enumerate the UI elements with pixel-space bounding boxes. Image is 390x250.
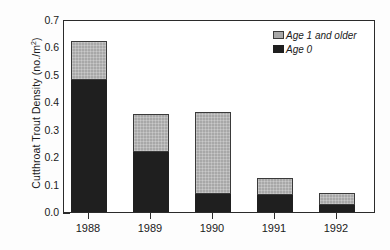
bar-segment-age1-and-older <box>257 178 293 195</box>
y-tick-label-0.0: 0.0 <box>19 207 59 217</box>
chart-legend: Age 1 and older Age 0 <box>273 29 383 57</box>
y-tick-label-0.6: 0.6 <box>19 42 59 52</box>
y-axis-title-tail: ) <box>30 37 42 41</box>
x-tick-label-1989: 1989 <box>120 222 180 234</box>
y-tick-label-0.4: 0.4 <box>19 97 59 107</box>
legend-label-age1: Age 1 and older <box>286 30 357 41</box>
chart-figure: Cutthroat Trout Density (no./m2) 0.7 0.6… <box>0 0 390 250</box>
bar-segment-age0 <box>195 194 231 212</box>
x-tick-label-1990: 1990 <box>182 222 242 234</box>
y-axis-title-base: Cutthroat Trout Density (no./m <box>30 45 42 189</box>
x-tick-label-1988: 1988 <box>58 222 118 234</box>
x-tick <box>212 213 213 219</box>
x-tick-label-1992: 1992 <box>306 222 366 234</box>
y-tick-label-0.3: 0.3 <box>19 125 59 135</box>
x-tick <box>274 213 275 219</box>
legend-item-age-1-and-older: Age 1 and older <box>273 29 383 41</box>
legend-label-age0: Age 0 <box>286 44 312 55</box>
legend-swatch-icon-age1 <box>273 31 284 39</box>
bar-segment-age1-and-older <box>319 193 355 205</box>
bar-segment-age1-and-older <box>71 41 107 80</box>
x-tick <box>150 213 151 219</box>
x-tick <box>88 213 89 219</box>
bar-segment-age0 <box>71 80 107 212</box>
bar-segment-age0 <box>133 152 169 213</box>
plot-area: Age 1 and older Age 0 <box>63 20 375 213</box>
bar-segment-age1-and-older <box>195 112 231 195</box>
y-tick-major <box>63 213 70 214</box>
x-tick-label-1991: 1991 <box>244 222 304 234</box>
y-tick-label-0.7: 0.7 <box>19 15 59 25</box>
y-tick-label-0.1: 0.1 <box>19 180 59 190</box>
y-tick-label-0.2: 0.2 <box>19 152 59 162</box>
bar-segment-age1-and-older <box>133 114 169 151</box>
bar-segment-age0 <box>319 205 355 212</box>
x-tick <box>336 213 337 219</box>
bar-segment-age0 <box>257 195 293 212</box>
legend-item-age-0: Age 0 <box>273 43 383 55</box>
legend-swatch-icon-age0 <box>273 45 284 53</box>
y-tick-label-0.5: 0.5 <box>19 70 59 80</box>
